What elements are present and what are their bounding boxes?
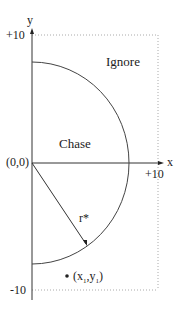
origin-label: (0,0) (6, 156, 29, 168)
radius-arrow-icon (83, 240, 87, 246)
x-max-label: +10 (145, 168, 164, 180)
radius-line (32, 163, 86, 244)
y-axis-arrow-icon (30, 28, 34, 34)
point-label-y: ,y (87, 269, 96, 283)
point-label-x: (x (73, 269, 83, 283)
ignore-region-label: Ignore (106, 56, 140, 68)
y-min-label: -10 (10, 284, 26, 296)
point-label-close: ) (99, 269, 103, 283)
radius-label: r* (79, 212, 89, 224)
y-axis-label: y (27, 14, 33, 26)
y-max-label: +10 (6, 29, 25, 41)
point-marker (65, 274, 69, 278)
x-axis-label: x (167, 156, 173, 168)
chase-region-label: Chase (59, 138, 91, 150)
point-label: (x1,y1) (73, 270, 103, 287)
x-axis-arrow-icon (158, 161, 164, 165)
